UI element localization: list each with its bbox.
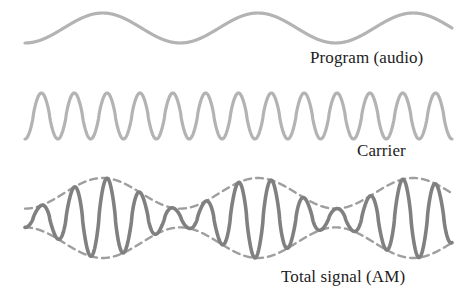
program-audio-waveform: [25, 13, 452, 43]
program-audio-label: Program (audio): [310, 48, 423, 68]
total-signal-label: Total signal (AM): [281, 267, 405, 287]
program-audio-wave-group: [25, 13, 452, 43]
carrier-waveform: [25, 93, 452, 139]
carrier-wave-group: [25, 93, 452, 139]
total-signal-group: [25, 178, 452, 258]
carrier-label: Carrier: [357, 141, 406, 161]
am-total-waveform: [25, 178, 452, 258]
